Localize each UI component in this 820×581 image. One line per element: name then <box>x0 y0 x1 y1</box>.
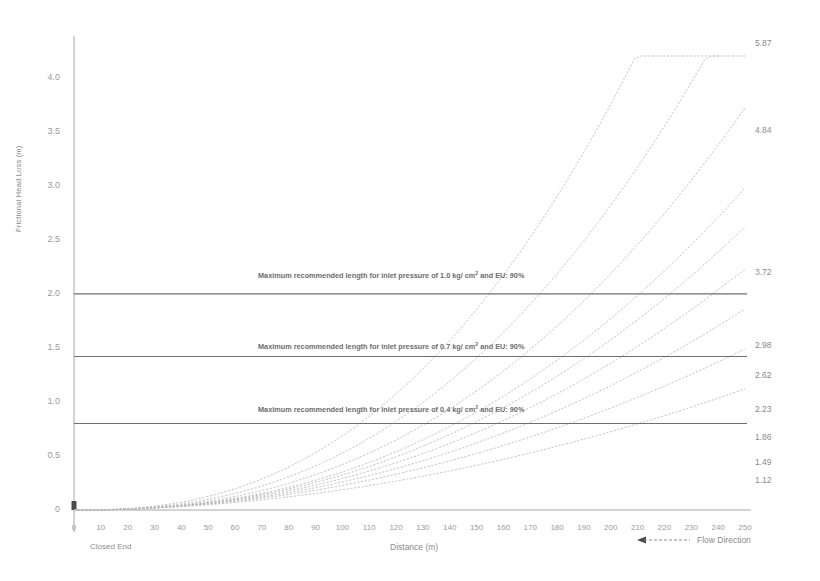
y-tick-3.0: 3.0 <box>30 180 60 190</box>
series-curve-2.23 <box>74 269 745 510</box>
reference-annotation-0: Maximum recommended length for inlet pre… <box>258 270 524 280</box>
series-curve-5.87 <box>74 56 718 510</box>
endpoint-label-1.12: 1.12 <box>755 475 772 485</box>
x-tick-90: 90 <box>303 523 329 532</box>
x-tick-30: 30 <box>142 523 168 532</box>
endpoint-label-5.87: 5.87 <box>755 38 772 48</box>
x-tick-230: 230 <box>678 523 704 532</box>
endpoint-label-2.23: 2.23 <box>755 404 772 414</box>
y-tick-2.5: 2.5 <box>30 234 60 244</box>
series-curve-3.72 <box>74 108 745 510</box>
x-tick-240: 240 <box>705 523 731 532</box>
x-tick-130: 130 <box>410 523 436 532</box>
x-tick-250: 250 <box>732 523 758 532</box>
x-tick-60: 60 <box>222 523 248 532</box>
y-tick-0.5: 0.5 <box>30 450 60 460</box>
endpoint-label-3.72: 3.72 <box>755 267 772 277</box>
x-tick-190: 190 <box>571 523 597 532</box>
y-tick-2.0: 2.0 <box>30 288 60 298</box>
reference-annotation-1: Maximum recommended length for inlet pre… <box>258 341 524 351</box>
x-tick-20: 20 <box>115 523 141 532</box>
y-tick-4.0: 4.0 <box>30 72 60 82</box>
x-tick-70: 70 <box>249 523 275 532</box>
x-tick-120: 120 <box>383 523 409 532</box>
x-tick-210: 210 <box>625 523 651 532</box>
x-tick-10: 10 <box>88 523 114 532</box>
x-tick-100: 100 <box>329 523 355 532</box>
chart-root: Frictional Head Loss (m) 00.51.01.52.02.… <box>0 0 820 581</box>
reference-annotation-2: Maximum recommended length for inlet pre… <box>258 404 524 414</box>
x-tick-110: 110 <box>356 523 382 532</box>
x-tick-40: 40 <box>168 523 194 532</box>
series-curve-1.49 <box>74 349 745 510</box>
chart-canvas <box>0 0 820 581</box>
x-tick-180: 180 <box>544 523 570 532</box>
endpoint-label-2.62: 2.62 <box>755 370 772 380</box>
x-axis-title: Distance (m) <box>390 542 438 552</box>
y-tick-0: 0 <box>30 504 60 514</box>
x-tick-80: 80 <box>276 523 302 532</box>
closed-end-label: Closed End <box>90 542 131 551</box>
endpoint-label-1.49: 1.49 <box>755 457 772 467</box>
y-tick-1.0: 1.0 <box>30 396 60 406</box>
curves-layer <box>74 56 745 510</box>
x-tick-200: 200 <box>598 523 624 532</box>
x-tick-170: 170 <box>517 523 543 532</box>
endpoint-label-1.86: 1.86 <box>755 432 772 442</box>
x-tick-150: 150 <box>464 523 490 532</box>
y-tick-3.5: 3.5 <box>30 126 60 136</box>
y-tick-1.5: 1.5 <box>30 342 60 352</box>
x-tick-220: 220 <box>651 523 677 532</box>
series-curve-4.84 <box>74 56 745 510</box>
y-axis-title: Frictional Head Loss (m) <box>14 32 23 232</box>
x-tick-140: 140 <box>437 523 463 532</box>
endpoint-label-4.84: 4.84 <box>755 125 772 135</box>
x-tick-50: 50 <box>195 523 221 532</box>
x-tick-160: 160 <box>490 523 516 532</box>
endpoint-label-2.98: 2.98 <box>755 340 772 350</box>
flow-direction-label: Flow Direction <box>697 535 751 545</box>
flow-direction-legend-marker <box>637 537 690 544</box>
x-tick-0: 0 <box>61 523 87 532</box>
